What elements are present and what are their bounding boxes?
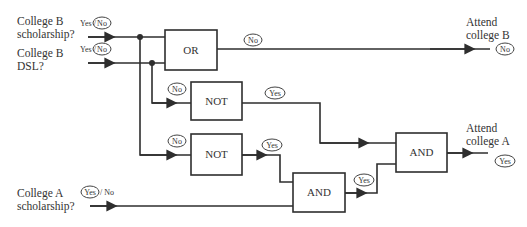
input-b-dsl-selected: No [97, 45, 107, 54]
wire-not2-to-and1 [242, 155, 293, 182]
not2-gate-label: NOT [205, 148, 228, 160]
label-line: scholarship? [17, 28, 74, 41]
label-line: Attend [466, 16, 510, 29]
signal-not2-in: No [172, 137, 182, 146]
input-b-scholarship-option-yes: Yes / [80, 19, 97, 28]
or-gate-label: OR [183, 44, 199, 56]
input-b-scholarship-selected: No [97, 19, 107, 28]
signal-not2-out: Yes [266, 141, 278, 150]
label-line: college B [466, 29, 510, 42]
input-b-dsl-option-yes: Yes / [80, 45, 97, 54]
label-line: college A [466, 135, 510, 148]
label-line: College B [17, 15, 74, 28]
label-line: scholarship? [17, 200, 74, 213]
output-attend-b-value: No [500, 45, 510, 54]
output-attend-a-label: Attend college A [466, 122, 510, 148]
output-attend-b-label: Attend college B [466, 16, 510, 42]
junction-dot [137, 34, 143, 40]
wire-and1-to-and2 [345, 164, 396, 193]
input-b-scholarship-label: College B scholarship? [17, 15, 74, 41]
signal-or-out: No [248, 36, 258, 45]
and2-gate-label: AND [410, 146, 434, 158]
signal-not1-in: No [172, 85, 182, 94]
not1-gate-label: NOT [205, 95, 228, 107]
input-a-scholarship-option-no: / No [100, 188, 114, 197]
input-a-scholarship-selected: Yes [84, 188, 96, 197]
input-b-dsl-label: College B DSL? [17, 47, 63, 73]
label-line: DSL? [17, 60, 63, 73]
label-line: College B [17, 47, 63, 60]
output-attend-a-value: Yes [499, 157, 511, 166]
logic-diagram: OR NOT NOT AND AND No No Yes No No Yes N… [0, 0, 527, 227]
junction-dot [149, 60, 155, 66]
and1-gate-label: AND [307, 186, 331, 198]
signal-and1-out: Yes [358, 176, 370, 185]
wire-not1-to-and2 [242, 103, 396, 143]
label-line: Attend [466, 122, 510, 135]
label-line: College A [17, 187, 74, 200]
input-a-scholarship-label: College A scholarship? [17, 187, 74, 213]
signal-not1-out: Yes [269, 89, 281, 98]
